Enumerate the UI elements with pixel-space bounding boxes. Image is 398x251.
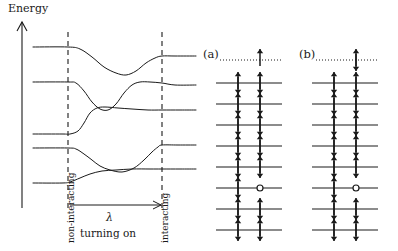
spin-arrow-down-b-l1-right bbox=[353, 98, 359, 115]
spin-arrow-down-b-l6-left bbox=[331, 203, 337, 220]
spin-arrow-down-b-lfermi-right bbox=[353, 54, 359, 71]
spin-arrow-down-a-l0-right bbox=[257, 77, 263, 94]
spin-arrow-down-a-l1-right bbox=[257, 98, 263, 115]
energy-level-curve-level-4 bbox=[33, 145, 196, 172]
spin-arrow-down-a-l7-right bbox=[257, 224, 263, 241]
spin-arrow-down-a-l1-left bbox=[235, 98, 241, 115]
spin-arrow-down-b-l4-left bbox=[331, 161, 337, 178]
physics-figure: Energy λ turning on non-interacting inte… bbox=[0, 0, 398, 251]
spin-arrow-down-b-l0-left bbox=[331, 77, 337, 94]
spin-arrow-down-b-l4-right bbox=[353, 161, 359, 178]
spin-arrow-down-a-l0-left bbox=[235, 77, 241, 94]
spin-arrow-down-b-l3-left bbox=[331, 140, 337, 157]
panel-a-label: (a) bbox=[203, 49, 219, 61]
spin-arrow-down-b-l6-right bbox=[353, 203, 359, 220]
spin-arrow-down-a-l5-left bbox=[235, 182, 241, 199]
non-interacting-label: non-interacting bbox=[67, 173, 76, 243]
spin-arrow-down-a-l2-right bbox=[257, 119, 263, 136]
spin-arrow-down-b-l7-left bbox=[331, 224, 337, 241]
hole-marker-a-l5-right bbox=[257, 185, 263, 191]
spin-arrow-down-a-l3-left bbox=[235, 140, 241, 157]
spin-arrow-down-b-l7-right bbox=[353, 224, 359, 241]
spin-arrow-down-b-l3-right bbox=[353, 140, 359, 157]
spin-arrow-down-a-l6-left bbox=[235, 203, 241, 220]
lambda-label: λ bbox=[106, 212, 113, 223]
spin-arrow-down-b-l1-left bbox=[331, 98, 337, 115]
energy-level-curve-level-2 bbox=[33, 82, 196, 111]
spin-arrow-down-b-l2-right bbox=[353, 119, 359, 136]
spin-arrow-up-a-lfermi-right bbox=[257, 49, 263, 66]
spin-arrow-down-a-l7-left bbox=[235, 224, 241, 241]
spin-arrow-down-b-l5-left bbox=[331, 182, 337, 199]
interacting-label: interacting bbox=[161, 193, 170, 243]
panel-b-label: (b) bbox=[299, 49, 315, 61]
figure-vector-layer bbox=[0, 0, 398, 251]
spin-arrow-down-a-l3-right bbox=[257, 140, 263, 157]
energy-axis-label: Energy bbox=[8, 3, 48, 14]
spin-arrow-down-a-l4-left bbox=[235, 161, 241, 178]
spin-arrow-down-a-l2-left bbox=[235, 119, 241, 136]
energy-level-curve-level-1 bbox=[33, 47, 196, 75]
spin-arrow-down-a-l6-right bbox=[257, 203, 263, 220]
hole-marker-b-l5-right bbox=[353, 185, 359, 191]
spin-arrow-down-b-l2-left bbox=[331, 119, 337, 136]
spin-arrow-down-b-l0-right bbox=[353, 77, 359, 94]
turning-on-label: turning on bbox=[80, 228, 136, 239]
energy-level-curve-level-3 bbox=[33, 107, 196, 134]
spin-arrow-down-a-l4-right bbox=[257, 161, 263, 178]
